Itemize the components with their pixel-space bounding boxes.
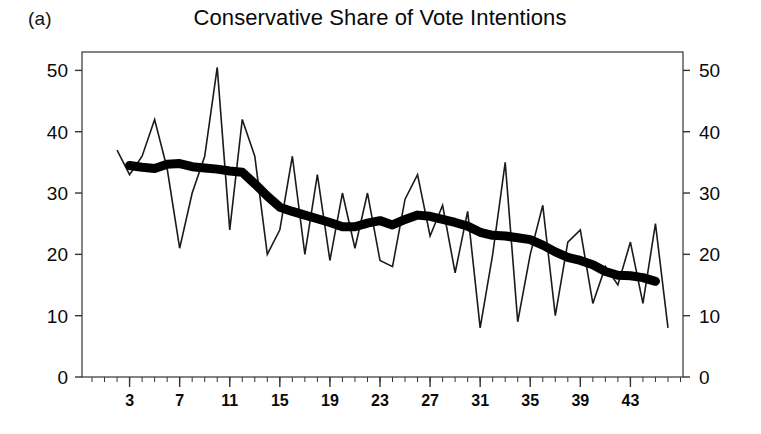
y-tick-label-right: 20 <box>699 244 720 265</box>
x-axis-labels: 37111519232731353943 <box>125 392 639 409</box>
x-tick-label: 43 <box>622 392 640 409</box>
y-tick-label-left: 30 <box>47 183 68 204</box>
x-tick-label: 35 <box>521 392 539 409</box>
y-tick-label-left: 50 <box>47 60 68 81</box>
x-tick-label: 19 <box>321 392 339 409</box>
x-tick-label: 39 <box>571 392 589 409</box>
y-tick-label-right: 30 <box>699 183 720 204</box>
x-tick-label: 31 <box>471 392 489 409</box>
y-tick-label-right: 10 <box>699 306 720 327</box>
y-axis-left-labels: 01020304050 <box>47 60 68 388</box>
y-tick-label-right: 50 <box>699 60 720 81</box>
y-axis-left-ticks <box>75 70 82 377</box>
y-tick-label-right: 0 <box>699 367 710 388</box>
figure-panel: (a) Conservative Share of Vote Intention… <box>0 0 761 434</box>
x-tick-label: 3 <box>125 392 134 409</box>
line-chart-plot: 01020304050 01020304050 3711151923273135… <box>0 0 761 434</box>
x-tick-label: 15 <box>271 392 289 409</box>
y-tick-label-right: 40 <box>699 122 720 143</box>
y-tick-label-left: 0 <box>57 367 68 388</box>
x-tick-label: 27 <box>421 392 439 409</box>
plot-frame <box>82 52 683 377</box>
y-tick-label-left: 10 <box>47 306 68 327</box>
y-axis-right-ticks <box>683 70 690 377</box>
y-tick-label-left: 20 <box>47 244 68 265</box>
x-tick-label: 23 <box>371 392 389 409</box>
y-axis-right-labels: 01020304050 <box>699 60 720 388</box>
x-tick-label: 7 <box>175 392 184 409</box>
y-tick-label-left: 40 <box>47 122 68 143</box>
x-tick-label: 11 <box>221 392 238 409</box>
